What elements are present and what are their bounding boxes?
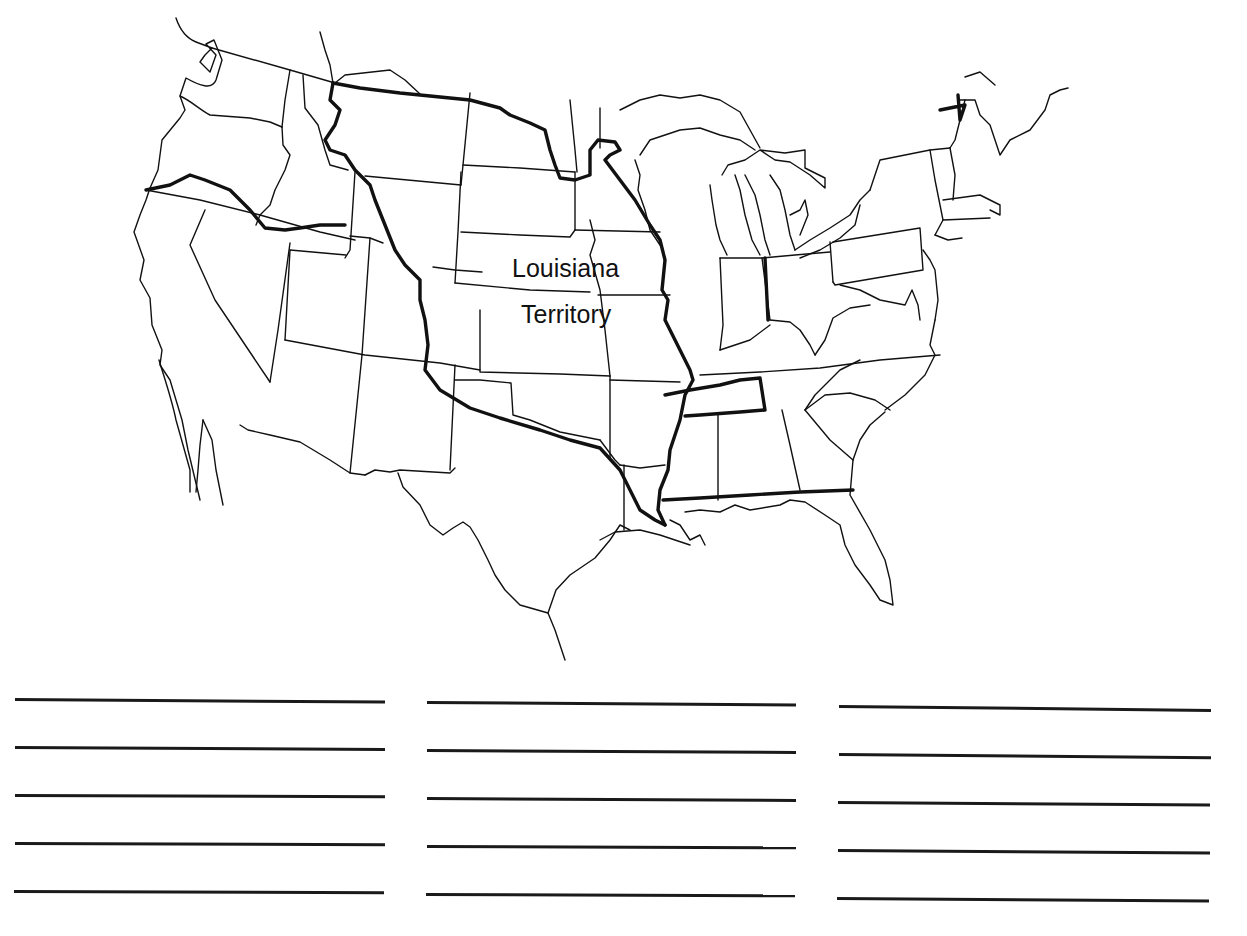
answer-line[interactable]: [838, 849, 1210, 854]
answer-line[interactable]: [427, 797, 796, 801]
answer-line[interactable]: [14, 890, 384, 894]
state-borders: [134, 18, 1068, 660]
answer-line[interactable]: [15, 842, 385, 846]
answer-line[interactable]: [15, 794, 385, 798]
answer-line[interactable]: [839, 705, 1211, 711]
answer-line[interactable]: [15, 698, 385, 703]
answer-line[interactable]: [838, 801, 1210, 806]
map-label-territory: Territory: [521, 302, 611, 327]
answer-line[interactable]: [427, 749, 796, 753]
answer-line[interactable]: [427, 845, 796, 849]
us-outline-map: Louisiana Territory: [0, 0, 1247, 680]
map-label-louisiana: Louisiana: [512, 256, 619, 281]
answer-line[interactable]: [426, 893, 795, 897]
answer-line[interactable]: [837, 897, 1209, 902]
answer-line[interactable]: [839, 753, 1211, 759]
answer-line[interactable]: [15, 746, 385, 750]
answer-line[interactable]: [427, 701, 796, 706]
